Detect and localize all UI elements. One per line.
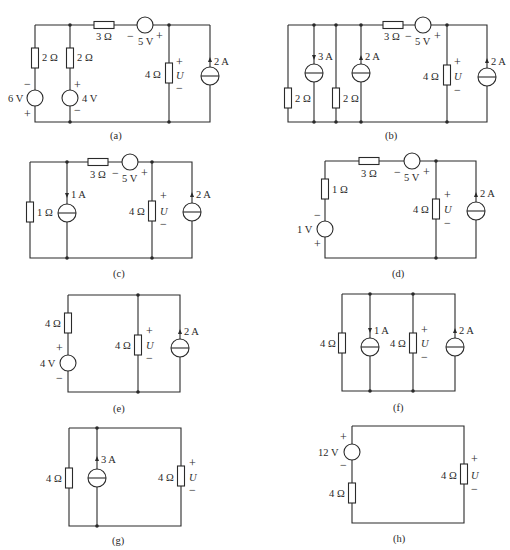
source-label: 5 V [122,173,138,184]
plus-sign: + [471,452,478,466]
caption-h: (h) [393,533,406,545]
minus-sign: − [444,216,451,230]
arrow-down-icon [312,55,316,60]
plus-sign: + [340,430,347,444]
plus-sign: + [314,237,321,251]
resistor-label: 1 Ω [332,184,348,195]
minus-sign: − [421,350,428,364]
circuit-c: 1 Ω 1 A 3 Ω 5 V − + 4 Ω + U − 2 A (c) [27,154,212,280]
wire [35,25,210,122]
plus-sign: + [421,323,428,337]
source-label: 5 V [404,172,420,183]
resistor-label: 4 Ω [158,472,174,483]
resistor-4ohm [178,466,185,486]
caption-c: (c) [113,268,125,280]
caption-e: (e) [113,403,125,415]
plus-sign: + [141,166,148,180]
minus-sign: − [189,483,196,497]
source-label: 1 V [297,224,313,235]
source-label: 2 A [480,188,495,199]
minus-sign: − [56,371,63,385]
resistor-2ohm [333,88,340,108]
source-label: 2 A [459,325,474,336]
resistor-label: 4 Ω [423,71,439,82]
resistor-4ohm [65,313,72,333]
plus-sign: + [74,78,81,92]
resistor-4ohm [410,333,417,353]
resistor-4ohm [149,201,156,221]
source-label: 5 V [415,36,431,47]
arrow-down-icon [368,328,372,333]
voltage-source-6v [27,90,43,106]
plus-sign: + [454,55,461,69]
resistor-label: 4 Ω [320,338,336,349]
resistor-label: 3 Ω [384,31,400,42]
voltage-source-4v [60,355,76,371]
arrow-down-icon [65,193,69,198]
circuit-a: 2 Ω 6 V − + 2 Ω 4 V + − 3 Ω 5 V − + 4 Ω … [8,17,229,142]
caption-f: (f) [393,402,404,414]
resistor-3ohm [94,22,114,29]
circuit-e: 4 Ω 4 V + − 4 Ω + U − 2 A (e) [40,293,199,415]
source-label: 2 A [196,189,211,200]
resistor-4ohm [433,199,440,219]
source-label: 2 A [365,51,380,62]
source-label: 6 V [8,93,24,104]
resistor-label: 1 Ω [37,207,53,218]
resistor-label: 2 Ω [42,52,58,63]
voltage-u-label: U [471,470,480,481]
resistor-4ohm [66,468,73,488]
minus-sign: − [24,77,31,91]
source-label: 1 A [71,189,86,200]
arrow-up-icon [359,55,363,60]
voltage-source-5v [415,17,431,33]
resistor-3ohm [383,22,403,29]
resistor-label: 4 Ω [413,204,429,215]
resistor-label: 4 Ω [45,318,61,329]
resistor-label: 4 Ω [115,340,131,351]
voltage-u-label: U [454,71,463,82]
arrow-up-icon [95,456,99,461]
minus-sign: − [146,351,153,365]
resistor-label: 4 Ω [441,470,457,481]
voltage-source-5v [404,153,420,169]
resistor-2ohm [285,88,292,108]
resistor-label: 4 Ω [145,69,161,80]
voltage-source-5v [122,154,138,170]
wire [30,162,192,258]
resistor-1ohm [27,202,34,222]
arrow-up-icon [178,329,182,334]
voltage-u-label: U [189,472,198,483]
minus-sign: − [127,29,134,43]
caption-a: (a) [110,130,122,142]
plus-sign: + [444,188,451,202]
resistor-label: 4 Ω [390,338,406,349]
resistor-4ohm [461,464,468,484]
arrow-up-icon [208,57,212,62]
minus-sign: − [112,166,119,180]
caption-d: (d) [392,268,405,280]
resistor-label: 3 Ω [90,169,106,180]
minus-sign: − [471,482,478,496]
circuit-g: 4 Ω 3 A 4 Ω + U − (g) [46,426,198,547]
arrow-up-icon [474,192,478,197]
resistor-4ohm [444,65,451,85]
circuit-figure: 2 Ω 6 V − + 2 Ω 4 V + − 3 Ω 5 V − + 4 Ω … [0,0,510,550]
resistor-label: 2 Ω [295,93,311,104]
voltage-u-label: U [176,70,185,81]
circuit-b: 2 Ω 3 A 2 Ω 2 A 3 Ω 5 V − + 4 Ω + U − 2 … [285,17,507,142]
voltage-u-label: U [444,204,453,215]
circuit-d: 1 Ω 1 V − + 3 Ω 5 V − + 4 Ω + U − 2 A (d… [297,153,495,280]
resistor-label: 4 Ω [129,206,145,217]
plus-sign: + [423,165,430,179]
minus-sign: − [74,103,81,117]
plus-sign: + [156,29,163,43]
caption-b: (b) [385,130,398,142]
plus-sign: + [160,189,167,203]
source-label: 12 V [318,447,339,458]
resistor-label: 2 Ω [77,52,93,63]
source-label: 5 V [138,36,154,47]
voltage-source-5v [137,17,153,33]
resistor-label: 2 Ω [343,93,359,104]
source-label: 2 A [491,56,506,67]
